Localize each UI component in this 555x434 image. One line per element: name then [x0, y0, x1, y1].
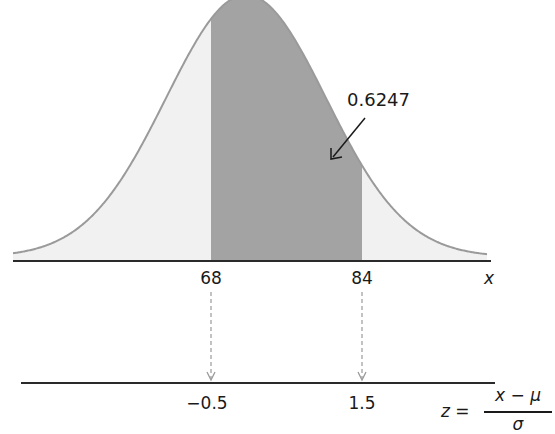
area-value-label: 0.6247 — [347, 91, 410, 109]
connector-arrow-left — [207, 292, 215, 380]
x-tick-label-68: 68 — [200, 270, 222, 287]
x-tick-label-84: 84 — [351, 270, 373, 287]
connector-arrow-right — [358, 292, 366, 380]
z-tick-label-neg-0-5: −0.5 — [186, 395, 227, 412]
x-axis-variable-label: x — [484, 270, 494, 287]
formula-fraction: x − μ σ — [484, 386, 552, 434]
formula-numerator: x − μ — [484, 386, 552, 405]
formula-lhs: z = — [441, 401, 470, 421]
z-tick-label-1-5: 1.5 — [348, 395, 375, 412]
z-score-formula: z = x − μ σ — [440, 386, 555, 426]
formula-denominator: σ — [484, 415, 552, 434]
fraction-bar — [484, 411, 552, 413]
shaded-probability-region — [13, 0, 487, 261]
